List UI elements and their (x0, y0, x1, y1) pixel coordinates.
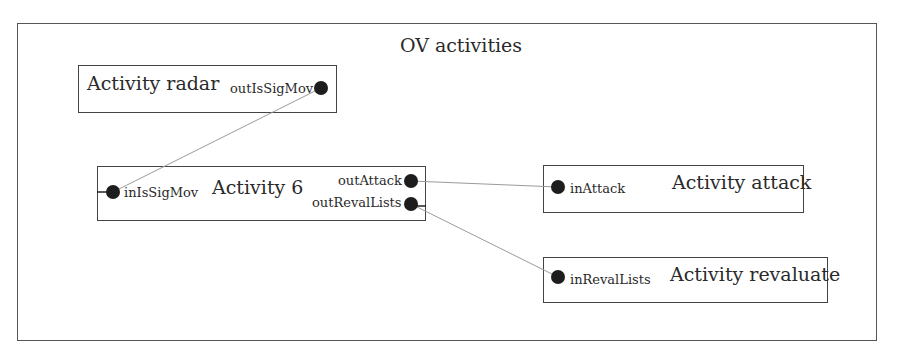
port-inRevalLists-icon[interactable] (551, 270, 565, 284)
port-outAttack-icon[interactable] (404, 174, 418, 188)
wire-outAttack-inAttack[interactable] (411, 181, 558, 187)
port-inAttack-icon[interactable] (551, 180, 565, 194)
port-outRevalLists-icon[interactable] (404, 197, 418, 211)
port-outIsSigMov-icon[interactable] (314, 81, 328, 95)
wire-outIsSigMov-inIsSigMov[interactable] (113, 88, 321, 192)
port-inIsSigMov-icon[interactable] (106, 185, 120, 199)
wire-outRevalLists-inRevalLists[interactable] (411, 204, 558, 277)
connection-wires (0, 0, 908, 353)
